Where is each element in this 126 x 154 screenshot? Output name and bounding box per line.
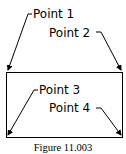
point-2-label: Point 2: [49, 26, 90, 40]
point-2-leader-arrow: [96, 32, 121, 70]
figure-caption: Figure 11.003: [34, 142, 93, 153]
point-4-callout: Point 4: [49, 101, 121, 135]
point-4-leader-arrow: [96, 108, 121, 135]
point-1-label: Point 1: [33, 7, 74, 21]
point-4-label: Point 4: [49, 101, 90, 115]
diagram: Point 1 Point 2 Point 3 Point 4 Figure 1…: [0, 0, 126, 154]
point-3-leader-arrow: [8, 90, 38, 135]
point-2-callout: Point 2: [49, 26, 121, 70]
point-1-leader-arrow: [8, 14, 32, 70]
point-3-label: Point 3: [39, 83, 80, 97]
